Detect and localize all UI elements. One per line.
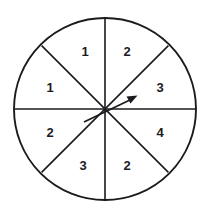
- spinner-figure: 1 2 3 4 2 3 2 1: [0, 0, 211, 218]
- sector-label-left-upper: 1: [46, 80, 53, 95]
- sector-label-top-right: 2: [123, 44, 130, 59]
- sector-label-right-upper: 3: [156, 80, 163, 95]
- sector-label-right-lower: 4: [156, 125, 164, 140]
- sector-label-left-lower: 2: [46, 125, 53, 140]
- sector-label-top-left: 1: [81, 44, 88, 59]
- spinner-svg: 1 2 3 4 2 3 2 1: [0, 0, 211, 218]
- sector-label-bottom-left: 3: [79, 158, 86, 173]
- sector-label-bottom-right: 2: [123, 158, 130, 173]
